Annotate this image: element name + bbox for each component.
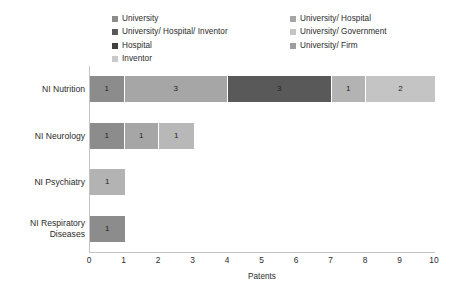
legend-item[interactable]: University/ Firm xyxy=(290,39,452,53)
bar-segment[interactable]: 1 xyxy=(90,216,125,242)
legend-swatch-icon xyxy=(112,56,118,62)
bar-value-label: 1 xyxy=(105,178,109,186)
bar-value-label: 1 xyxy=(105,85,109,93)
x-axis-tick-label: 2 xyxy=(156,256,161,264)
bar-value-label: 1 xyxy=(174,132,178,140)
bar-value-label: 3 xyxy=(277,85,281,93)
x-axis-tick-label: 4 xyxy=(225,256,230,264)
bar-segment[interactable]: 1 xyxy=(90,169,125,195)
bar-row[interactable]: 13312 xyxy=(90,76,435,102)
legend-item[interactable]: University xyxy=(112,12,290,26)
bar-value-label: 1 xyxy=(346,85,350,93)
legend-swatch-icon xyxy=(290,16,296,22)
y-axis-category-label: NI Nutrition xyxy=(3,84,85,95)
x-axis-tick-labels: 012345678910 xyxy=(89,256,435,268)
y-axis-category-label: NI Respiratory Diseases xyxy=(3,218,85,239)
stacked-bar-chart: UniversityUniversity/ Hospital/ Inventor… xyxy=(0,0,460,306)
bar-segment[interactable]: 1 xyxy=(90,123,125,149)
bar-value-label: 1 xyxy=(139,132,143,140)
legend-item[interactable]: Hospital xyxy=(112,39,290,53)
legend-swatch-icon xyxy=(290,43,296,49)
x-axis-tick-label: 10 xyxy=(429,256,438,264)
legend-item-label: University xyxy=(122,15,158,23)
bar-row[interactable]: 1 xyxy=(90,169,125,195)
bar-value-label: 3 xyxy=(174,85,178,93)
legend-swatch-icon xyxy=(290,29,296,35)
legend-item-label: University/ Firm xyxy=(300,42,358,50)
legend-swatch-icon xyxy=(112,29,118,35)
bar-row[interactable]: 111 xyxy=(90,123,194,149)
x-axis-tick-label: 8 xyxy=(363,256,368,264)
legend-item-label: Inventor xyxy=(122,55,152,63)
y-axis-category-labels: NI NutritionNI NeurologyNI PsychiatryNI … xyxy=(0,66,85,252)
legend-item[interactable]: University/ Hospital/ Inventor xyxy=(112,26,290,40)
chart-legend: UniversityUniversity/ Hospital/ Inventor… xyxy=(112,12,452,66)
bar-segment[interactable]: 1 xyxy=(90,76,125,102)
bar-segment[interactable]: 3 xyxy=(125,76,229,102)
legend-item-label: University/ Hospital xyxy=(300,15,371,23)
bar-value-label: 1 xyxy=(105,132,109,140)
bar-value-label: 1 xyxy=(105,225,109,233)
x-axis-tick-label: 6 xyxy=(294,256,299,264)
x-axis-tick-label: 7 xyxy=(328,256,333,264)
legend-item[interactable]: University/ Government xyxy=(290,26,452,40)
x-axis-tick-label: 1 xyxy=(121,256,126,264)
bar-segment[interactable]: 2 xyxy=(366,76,435,102)
bar-segment[interactable]: 1 xyxy=(332,76,367,102)
bar-segment[interactable]: 1 xyxy=(125,123,160,149)
legend-item[interactable]: Inventor xyxy=(112,53,290,67)
y-axis-category-label: NI Neurology xyxy=(3,131,85,142)
x-axis-title: Patents xyxy=(89,272,435,281)
bar-row[interactable]: 1 xyxy=(90,216,125,242)
legend-item-label: University/ Hospital/ Inventor xyxy=(122,28,228,36)
bar-segment[interactable]: 1 xyxy=(159,123,194,149)
x-axis-tick-label: 5 xyxy=(259,256,264,264)
y-axis-category-label: NI Psychiatry xyxy=(3,177,85,188)
legend-item[interactable]: University/ Hospital xyxy=(290,12,452,26)
plot-area: 1331211111 xyxy=(89,66,435,252)
x-axis-line xyxy=(89,252,435,253)
legend-item-label: Hospital xyxy=(122,42,152,50)
x-axis-tick-label: 9 xyxy=(397,256,402,264)
legend-swatch-icon xyxy=(112,43,118,49)
legend-swatch-icon xyxy=(112,16,118,22)
legend-item-label: University/ Government xyxy=(300,28,387,36)
bar-value-label: 2 xyxy=(398,85,402,93)
x-axis-tick-label: 0 xyxy=(87,256,92,264)
x-axis-tick-label: 3 xyxy=(190,256,195,264)
bar-segment[interactable]: 3 xyxy=(228,76,332,102)
